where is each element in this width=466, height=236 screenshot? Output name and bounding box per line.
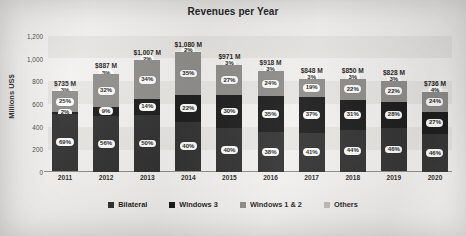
bar-segment[interactable]: 22% bbox=[340, 79, 366, 100]
bar-segment[interactable]: 24% bbox=[258, 71, 284, 96]
y-tick-label: 0 bbox=[39, 169, 43, 176]
x-axis-ticks: 2011201220132014201520162017201820192020 bbox=[48, 174, 452, 181]
legend-item[interactable]: Bilateral bbox=[108, 200, 147, 209]
bar-stack: 4%24%27%46% bbox=[422, 89, 448, 172]
bar-segment[interactable]: 24% bbox=[422, 92, 448, 112]
segment-value-label: 28% bbox=[385, 111, 402, 119]
bar-segment[interactable]: 40% bbox=[216, 128, 242, 172]
segment-value-label: 34% bbox=[139, 76, 156, 84]
segment-value-label: 38% bbox=[262, 148, 279, 156]
legend-item[interactable]: Others bbox=[324, 200, 358, 209]
segment-value-label: 35% bbox=[262, 110, 279, 118]
bar-column[interactable]: $971 M3%27%30%40% bbox=[216, 62, 242, 172]
segment-value-label: 24% bbox=[262, 80, 279, 88]
x-tick-label: 2019 bbox=[381, 174, 407, 181]
bar-stack: 3%24%35%38% bbox=[258, 68, 284, 172]
segment-value-label: 25% bbox=[56, 98, 73, 106]
bar-stack: 2%35%22%40% bbox=[175, 50, 201, 172]
segment-value-label: 50% bbox=[139, 140, 156, 148]
y-tick-label: 1,000 bbox=[27, 55, 43, 62]
bar-segment[interactable]: 41% bbox=[299, 133, 325, 172]
segment-value-label: 32% bbox=[98, 87, 115, 95]
bar-segment[interactable]: 56% bbox=[93, 116, 119, 172]
segment-value-label: 31% bbox=[344, 111, 361, 119]
segment-value-label: 9% bbox=[99, 107, 113, 115]
legend-label: Windows 1 & 2 bbox=[250, 200, 302, 209]
segment-value-label: 56% bbox=[98, 140, 115, 148]
legend-label: Bilateral bbox=[118, 200, 147, 209]
segment-value-label: 27% bbox=[426, 119, 443, 127]
legend-item[interactable]: Windows 1 & 2 bbox=[240, 200, 302, 209]
bar-column[interactable]: $1,080 M2%35%22%40% bbox=[175, 50, 201, 172]
legend-label: Windows 3 bbox=[179, 200, 218, 209]
bar-segment[interactable]: 37% bbox=[299, 97, 325, 133]
y-tick-label: 600 bbox=[32, 101, 43, 108]
segment-value-label: 69% bbox=[56, 138, 73, 146]
bar-stack: 3%25%2%69% bbox=[52, 89, 78, 172]
bar-segment[interactable]: 50% bbox=[134, 115, 160, 172]
y-tick-label: 200 bbox=[32, 146, 43, 153]
legend-swatch-icon bbox=[108, 202, 114, 208]
bar-segment[interactable]: 9% bbox=[93, 107, 119, 116]
bar-segment[interactable]: 46% bbox=[381, 128, 407, 171]
bar-segment[interactable]: 14% bbox=[134, 99, 160, 115]
bar-segment[interactable]: 32% bbox=[93, 74, 119, 106]
segment-value-label: 44% bbox=[344, 147, 361, 155]
bar-stack: 3%22%31%44% bbox=[340, 76, 366, 172]
bar-column[interactable]: $828 M3%22%28%46% bbox=[381, 78, 407, 172]
bar-segment[interactable]: 35% bbox=[258, 96, 284, 132]
bar-segment[interactable]: 28% bbox=[381, 102, 407, 128]
bar-segment[interactable]: 38% bbox=[258, 132, 284, 172]
bar-segment[interactable]: 22% bbox=[175, 95, 201, 122]
x-tick-label: 2018 bbox=[340, 174, 366, 181]
bar-column[interactable]: $887 M3%32%9%56% bbox=[93, 71, 119, 172]
x-tick-label: 2014 bbox=[175, 174, 201, 181]
bar-column[interactable]: $848 M3%19%37%41% bbox=[299, 76, 325, 172]
bar-column[interactable]: $735 M3%25%2%69% bbox=[52, 89, 78, 172]
bar-segment[interactable]: 31% bbox=[340, 100, 366, 130]
chart-title: Revenues per Year bbox=[0, 6, 466, 17]
bar-column[interactable]: $918 M3%24%35%38% bbox=[258, 68, 284, 172]
bar-segment[interactable]: 22% bbox=[381, 81, 407, 102]
legend-item[interactable]: Windows 3 bbox=[169, 200, 218, 209]
y-axis-label: Millions US$ bbox=[7, 62, 16, 132]
segment-value-label: 27% bbox=[221, 76, 238, 84]
bar-segment[interactable]: 44% bbox=[340, 130, 366, 172]
bar-segment[interactable]: 27% bbox=[422, 112, 448, 134]
x-tick-label: 2020 bbox=[422, 174, 448, 181]
bar-segment[interactable]: 34% bbox=[134, 60, 160, 99]
bar-segment[interactable]: 35% bbox=[175, 52, 201, 95]
segment-value-label: 40% bbox=[180, 142, 197, 150]
bar-segment[interactable]: 40% bbox=[175, 122, 201, 171]
bar-stack: 3%27%30%40% bbox=[216, 62, 242, 172]
chart-legend: BilateralWindows 3Windows 1 & 2Others bbox=[0, 200, 466, 209]
segment-value-label: 19% bbox=[303, 84, 320, 92]
bar-group: $735 M3%25%2%69%$887 M3%32%9%56%$1,007 M… bbox=[48, 36, 452, 172]
y-tick-label: 400 bbox=[32, 123, 43, 130]
y-tick-label: 800 bbox=[32, 78, 43, 85]
plot-area: 1,2001,0008006004002000 $735 M3%25%2%69%… bbox=[48, 36, 452, 172]
segment-value-label: 30% bbox=[221, 108, 238, 116]
bar-column[interactable]: $850 M3%22%31%44% bbox=[340, 76, 366, 172]
segment-value-label: 46% bbox=[426, 149, 443, 157]
bar-stack: 3%19%37%41% bbox=[299, 76, 325, 172]
bar-segment[interactable]: 19% bbox=[299, 79, 325, 97]
bar-total-label: $971 M bbox=[218, 53, 240, 60]
segment-value-label: 35% bbox=[180, 70, 197, 78]
bar-segment[interactable]: 30% bbox=[216, 95, 242, 128]
bar-column[interactable]: $736 M4%24%27%46% bbox=[422, 89, 448, 172]
legend-swatch-icon bbox=[324, 202, 330, 208]
x-tick-label: 2015 bbox=[216, 174, 242, 181]
legend-swatch-icon bbox=[240, 202, 246, 208]
bar-stack: 3%32%9%56% bbox=[93, 71, 119, 172]
bar-column[interactable]: $1,007 M2%34%14%50% bbox=[134, 58, 160, 172]
x-tick-label: 2012 bbox=[93, 174, 119, 181]
segment-value-label: 22% bbox=[344, 85, 361, 93]
bar-segment[interactable]: 69% bbox=[52, 114, 78, 171]
segment-value-label: 22% bbox=[385, 87, 402, 95]
segment-value-label: 41% bbox=[303, 148, 320, 156]
segment-value-label: 40% bbox=[221, 146, 238, 154]
segment-value-label: 46% bbox=[385, 146, 402, 154]
bar-segment[interactable]: 46% bbox=[422, 134, 448, 172]
bar-segment[interactable]: 27% bbox=[216, 65, 242, 95]
